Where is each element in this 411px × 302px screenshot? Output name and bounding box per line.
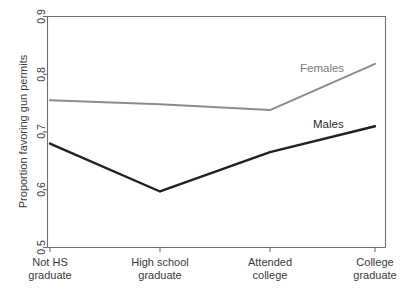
x-tick-label-not-hs-graduate: Not HS graduate [0,256,110,282]
x-tick-label-high-school-graduate: High school graduate [100,256,220,282]
series-line-males [50,126,375,191]
plot-frame [48,17,386,248]
x-tick-label-line2: college [210,269,330,282]
chart-figure: Proportion favoring gun permits 0.9 0.8 … [0,0,411,302]
x-tick-label-line1: Not HS [0,256,110,269]
x-tick-label-line1: High school [100,256,220,269]
x-tick-label-attended-college: Attended college [210,256,330,282]
x-tick-label-line1: Attended [210,256,330,269]
x-tick-label-line2: graduate [0,269,110,282]
x-axis-ticks [50,248,375,253]
x-tick-label-line1: College [315,256,411,269]
x-tick-label-college-graduate: College graduate [315,256,411,282]
series-annotation-females: Females [300,62,344,75]
x-tick-label-line2: graduate [100,269,220,282]
y-axis-ticks [43,17,48,248]
series-annotation-males: Males [313,118,344,131]
x-tick-label-line2: graduate [315,269,411,282]
